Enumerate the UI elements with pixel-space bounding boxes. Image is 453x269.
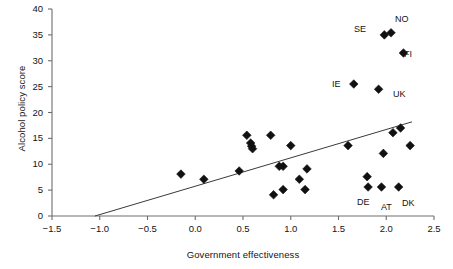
y-axis-tick-label: 5 (13, 185, 43, 195)
data-point-marker (269, 190, 278, 199)
data-point-marker (349, 80, 358, 89)
data-point-marker (279, 185, 288, 194)
x-axis-tick-label: 1.5 (319, 224, 359, 234)
data-point-marker (286, 141, 295, 150)
y-axis-tick-label: 15 (13, 133, 43, 143)
point-annotation-no: NO (395, 15, 409, 24)
x-axis-tick-label: 2.5 (414, 224, 453, 234)
y-axis-tick-label: 10 (13, 159, 43, 169)
y-axis-tick-label: 30 (13, 56, 43, 66)
data-point-marker (266, 131, 275, 140)
x-axis-tick-label: 2.0 (366, 224, 406, 234)
point-annotation-de: DE (357, 198, 370, 207)
point-annotation-fi: FI (404, 50, 412, 59)
data-points (177, 29, 415, 200)
data-point-marker (389, 128, 398, 137)
data-point-marker (177, 170, 186, 179)
data-point-marker (406, 141, 415, 150)
data-point-marker (363, 172, 372, 181)
x-axis-tick-label: 1.0 (271, 224, 311, 234)
point-annotation-ie: IE (332, 80, 341, 89)
data-point-marker (303, 165, 312, 174)
y-axis-tick-label: 25 (13, 82, 43, 92)
y-axis-tick-label: 20 (13, 108, 43, 118)
point-annotation-uk: UK (393, 90, 406, 99)
axes (48, 9, 434, 220)
x-axis-tick-label: 0.5 (223, 224, 263, 234)
data-point-marker (243, 131, 252, 140)
point-annotation-at: AT (381, 203, 392, 212)
data-point-marker (379, 149, 388, 158)
x-axis-tick-label: −0.5 (128, 224, 168, 234)
data-point-marker (364, 183, 373, 192)
point-annotation-se: SE (354, 25, 366, 34)
data-point-marker (377, 183, 386, 192)
x-axis-tick-label: 0.0 (175, 224, 215, 234)
y-axis-tick-label: 40 (13, 4, 43, 14)
point-annotation-dk: DK (402, 199, 415, 208)
data-point-marker (374, 85, 383, 94)
data-point-marker (295, 175, 304, 184)
data-point-marker (344, 141, 353, 150)
x-axis-tick-label: −1.5 (32, 224, 72, 234)
y-axis-tick-label: 0 (13, 211, 43, 221)
data-point-marker (396, 124, 405, 133)
data-point-marker (301, 185, 310, 194)
y-axis-tick-label: 35 (13, 30, 43, 40)
x-axis-tick-label: −1.0 (80, 224, 120, 234)
data-point-marker (394, 183, 403, 192)
scatter-chart-figure: Alcohol policy score Government effectiv… (0, 0, 453, 269)
